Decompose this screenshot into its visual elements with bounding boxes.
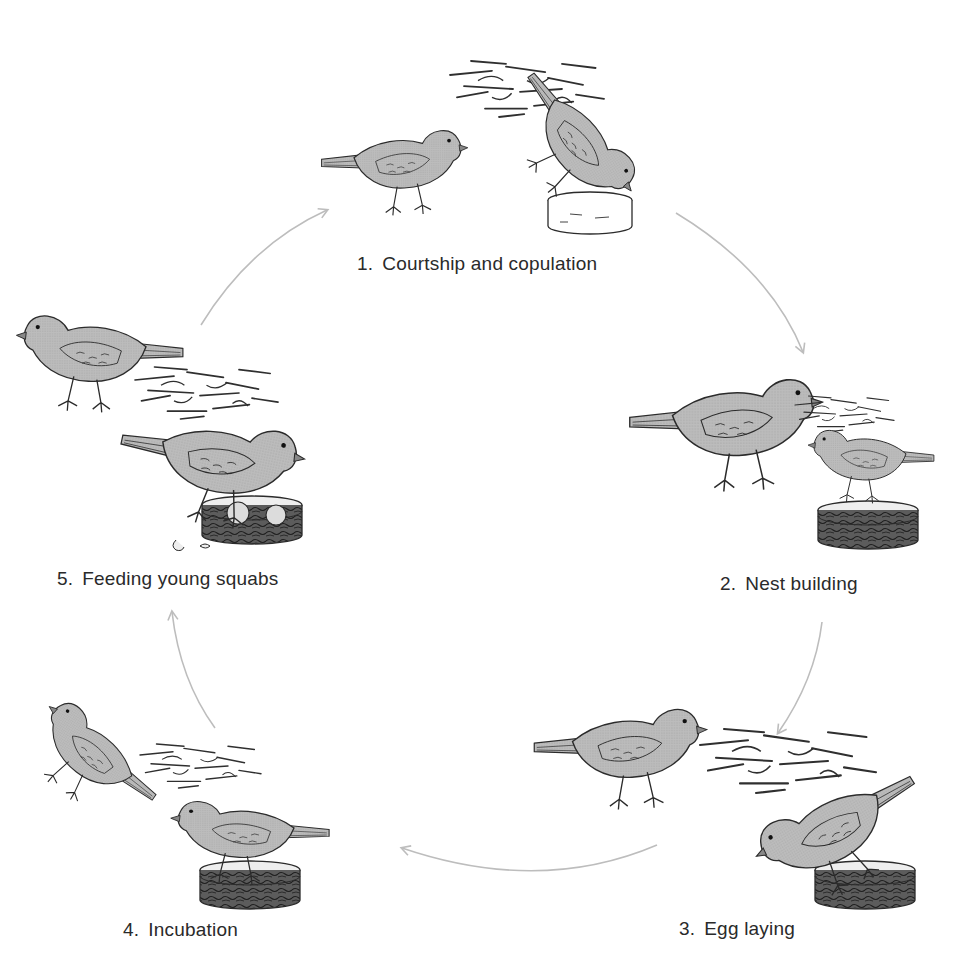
straw-icon — [135, 367, 278, 419]
arrow-5-to-1-icon — [201, 210, 327, 325]
stage-2-number: 2. — [720, 573, 736, 594]
dove-icon — [808, 430, 934, 503]
dove-icon — [534, 709, 707, 809]
stage-1-number: 1. — [357, 253, 373, 274]
stage-3-illustration — [534, 709, 945, 924]
reproductive-cycle-diagram — [0, 0, 979, 962]
straw-icon — [140, 744, 261, 788]
eggshell-icon — [173, 540, 210, 551]
stage-3-number: 3. — [679, 918, 695, 939]
stage-1-label: 1.Courtship and copulation — [357, 253, 597, 275]
nest-bowl-icon — [202, 496, 302, 544]
arrow-2-to-3-icon — [778, 622, 822, 733]
stage-5-number: 5. — [57, 568, 73, 589]
dove-icon — [13, 693, 172, 838]
stage-3-text: Egg laying — [704, 918, 795, 939]
nest-bowl-icon — [548, 192, 632, 234]
stage-2-text: Nest building — [745, 573, 857, 594]
straw-icon — [450, 61, 604, 117]
nest-bowl-icon — [815, 861, 915, 909]
stage-3-label: 3.Egg laying — [679, 918, 795, 940]
stage-1-text: Courtship and copulation — [382, 253, 597, 274]
nest-bowl-icon — [818, 501, 918, 549]
straw-icon — [700, 729, 876, 793]
stage-5-label: 5.Feeding young squabs — [57, 568, 279, 590]
stage-4-text: Incubation — [148, 919, 238, 940]
dove-icon — [630, 380, 823, 492]
stage-5-illustration — [16, 316, 309, 551]
stage-4-illustration — [13, 693, 330, 909]
stage-2-illustration — [630, 380, 934, 549]
arrow-3-to-4-icon — [402, 845, 657, 871]
arrow-1-to-2-icon — [676, 213, 803, 352]
stage-2-label: 2.Nest building — [720, 573, 858, 595]
stage-4-number: 4. — [123, 919, 139, 940]
stage-1-illustration — [322, 56, 646, 234]
arrow-4-to-5-icon — [172, 612, 215, 728]
dove-icon — [322, 131, 468, 216]
dove-icon — [171, 802, 329, 884]
stage-5-text: Feeding young squabs — [82, 568, 278, 589]
stage-4-label: 4.Incubation — [123, 919, 238, 941]
